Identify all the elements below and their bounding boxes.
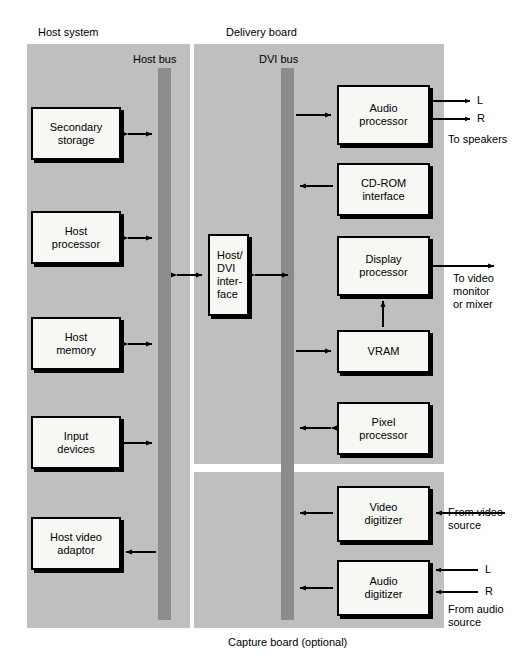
box-secondary-storage-label: Secondary storage bbox=[46, 121, 107, 147]
label-audio-in-right: R bbox=[485, 585, 493, 598]
box-host-video-adaptor-label: Host video adaptor bbox=[46, 531, 106, 557]
box-pixel-processor[interactable]: Pixel processor bbox=[337, 402, 430, 455]
label-speaker-right: R bbox=[477, 112, 485, 125]
caption-delivery-board: Delivery board bbox=[226, 26, 297, 38]
host-bus-bar bbox=[158, 68, 171, 620]
box-host-processor[interactable]: Host processor bbox=[31, 211, 121, 264]
label-to-speakers: To speakers bbox=[448, 133, 507, 146]
caption-host-system: Host system bbox=[38, 26, 99, 38]
box-audio-processor-label: Audio processor bbox=[355, 102, 411, 128]
box-audio-digitizer-label: Audio digitizer bbox=[361, 575, 407, 601]
box-host-memory[interactable]: Host memory bbox=[31, 317, 121, 370]
box-cd-rom-interface-label: CD-ROM interface bbox=[357, 177, 410, 203]
dvi-bus-bar bbox=[281, 68, 294, 620]
box-video-digitizer-label: Video digitizer bbox=[361, 501, 407, 527]
box-audio-digitizer[interactable]: Audio digitizer bbox=[337, 560, 430, 616]
box-host-processor-label: Host processor bbox=[48, 225, 104, 251]
diagram-canvas: Host system Delivery board Capture board… bbox=[0, 0, 522, 669]
box-host-dvi-interface-label: Host/ DVI inter- face bbox=[210, 249, 247, 301]
label-speaker-left: L bbox=[477, 94, 483, 107]
box-input-devices[interactable]: Input devices bbox=[31, 416, 121, 469]
label-from-video-source: From video source bbox=[448, 506, 503, 532]
label-host-bus: Host bus bbox=[133, 53, 176, 65]
box-video-digitizer[interactable]: Video digitizer bbox=[337, 486, 430, 542]
box-cd-rom-interface[interactable]: CD-ROM interface bbox=[337, 163, 430, 216]
box-host-dvi-interface[interactable]: Host/ DVI inter- face bbox=[208, 234, 249, 316]
label-audio-in-left: L bbox=[485, 563, 491, 576]
caption-capture-board: Capture board (optional) bbox=[228, 636, 347, 648]
box-pixel-processor-label: Pixel processor bbox=[355, 416, 411, 442]
box-host-video-adaptor[interactable]: Host video adaptor bbox=[31, 517, 121, 570]
label-dvi-bus: DVI bus bbox=[259, 53, 298, 65]
box-vram-label: VRAM bbox=[364, 345, 404, 358]
label-to-video-monitor: To video monitor or mixer bbox=[453, 272, 494, 311]
label-from-audio-source: From audio source bbox=[448, 603, 504, 629]
box-display-processor-label: Display processor bbox=[355, 253, 411, 279]
box-audio-processor[interactable]: Audio processor bbox=[337, 85, 430, 145]
box-vram[interactable]: VRAM bbox=[337, 330, 430, 373]
box-secondary-storage[interactable]: Secondary storage bbox=[31, 107, 121, 160]
box-display-processor[interactable]: Display processor bbox=[337, 236, 430, 296]
box-input-devices-label: Input devices bbox=[53, 430, 98, 456]
box-host-memory-label: Host memory bbox=[52, 331, 100, 357]
